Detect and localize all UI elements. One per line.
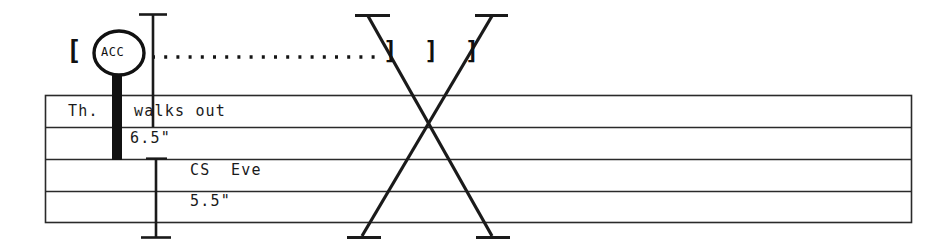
footage-dimension-line bbox=[139, 15, 171, 239]
table-row-1-left-cell: Th. bbox=[68, 104, 99, 119]
open-bracket: [ bbox=[66, 37, 82, 63]
acc-stem bbox=[112, 72, 122, 160]
acc-marker-label: ACC bbox=[101, 46, 124, 58]
table-row-1-right-cell: walks out bbox=[134, 104, 226, 119]
close-brackets: ] ] ] bbox=[383, 39, 485, 63]
table-row-4-right-cell: 5.5" bbox=[190, 194, 231, 209]
table-row-2-right-cell: 6.5" bbox=[130, 131, 171, 146]
table-row-3-right-cell: CS Eve bbox=[190, 163, 262, 178]
continuity-sheet: [ ACC ] ] ] Th. walks out 6.5" CS Eve 5.… bbox=[0, 0, 951, 252]
